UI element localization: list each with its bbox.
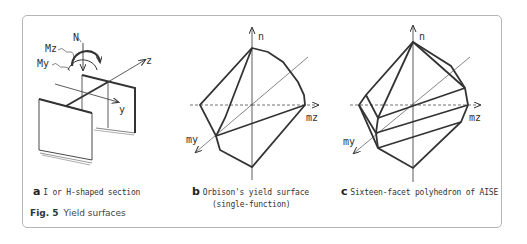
- label-mz-axis-b: mz: [306, 112, 318, 123]
- label-My: My: [37, 58, 49, 69]
- panel-a-caption-text: I or H-shaped section: [43, 188, 140, 197]
- panel-b-caption-line2: (single-function): [212, 200, 290, 209]
- label-y-axis: y: [119, 104, 125, 115]
- label-my-axis-c: my: [343, 136, 355, 147]
- label-N: N: [73, 32, 79, 43]
- label-z-axis: z: [146, 55, 152, 66]
- panel-b-orbison-diagram: [190, 28, 318, 180]
- panel-a-caption: aI or H-shaped section: [33, 185, 140, 198]
- label-n-axis-c: n: [419, 31, 425, 42]
- panel-c-letter: c: [341, 185, 347, 198]
- label-mz-axis-c: mz: [469, 112, 481, 123]
- figure-title: Yield surfaces: [64, 208, 126, 218]
- panel-a-section-diagram: [39, 38, 145, 165]
- figure-caption: Fig. 5Yield surfaces: [30, 208, 126, 218]
- label-n-axis-b: n: [258, 31, 264, 42]
- label-my-axis-b: my: [186, 134, 198, 145]
- figure-number: Fig. 5: [30, 208, 59, 218]
- panel-c-aise-diagram: [350, 26, 480, 182]
- panel-c-caption: cSixteen-facet polyhedron of AISE: [341, 185, 498, 198]
- label-Mz: Mz: [45, 43, 57, 54]
- panel-a-letter: a: [33, 185, 40, 198]
- panel-c-caption-text: Sixteen-facet polyhedron of AISE: [350, 188, 498, 197]
- panel-b-caption-line1: Orbison's yield surface: [203, 188, 309, 197]
- panel-b-letter: b: [192, 185, 200, 198]
- panel-b-caption: bOrbison's yield surface: [192, 185, 309, 198]
